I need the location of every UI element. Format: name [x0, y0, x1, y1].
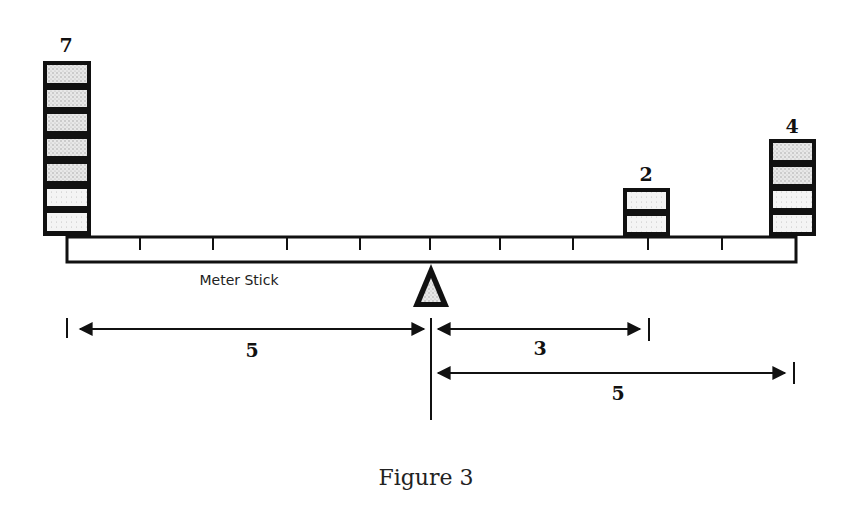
lever-diagram: 7 2 4 [0, 0, 852, 509]
left-stack-count: 7 [59, 34, 72, 56]
meter-stick-label: Meter Stick [199, 272, 279, 288]
middle-stack-count: 2 [639, 163, 652, 185]
right-far-distance-dimension: 5 [438, 362, 794, 404]
right-near-distance-dimension: 3 [438, 318, 649, 359]
right-stack-count: 4 [785, 115, 798, 137]
left-weight-stack: 7 [43, 34, 91, 236]
fulcrum-triangle [413, 264, 449, 307]
figure-caption: Figure 3 [378, 465, 473, 490]
left-distance-label: 5 [245, 339, 258, 361]
far-right-weight-stack: 4 [769, 115, 816, 236]
right-near-distance-label: 3 [533, 337, 546, 359]
middle-right-weight-stack: 2 [623, 163, 670, 236]
left-distance-dimension: 5 [67, 318, 424, 361]
right-far-distance-label: 5 [611, 382, 624, 404]
